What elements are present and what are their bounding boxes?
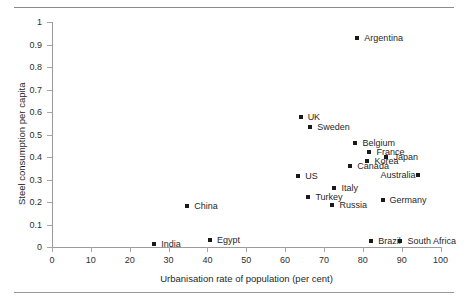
data-point [152,242,156,246]
x-axis-title: Urbanisation rate of population (per cen… [52,273,441,284]
x-tick-label: 40 [192,255,222,265]
data-point-label: India [161,240,181,249]
y-tick-mark [47,225,52,226]
data-point-label: UK [308,112,321,121]
x-tick-label: 0 [37,255,67,265]
scatter-chart: 00.10.20.30.40.50.60.70.80.91 0102030405… [0,0,464,307]
x-tick-label: 60 [270,255,300,265]
data-point [296,174,300,178]
data-point [353,141,357,145]
x-tick-mark [363,247,364,252]
x-tick-mark [52,247,53,252]
data-point-label: Australia [0,171,419,180]
data-point [369,239,373,243]
y-tick-label: 0.8 [2,62,42,72]
data-point [330,203,334,207]
x-tick-mark [324,247,325,252]
y-tick-mark [47,45,52,46]
data-point [332,186,336,190]
data-point-label: Argentina [364,33,403,42]
x-tick-mark [91,247,92,252]
y-tick-label: 1 [2,17,42,27]
data-point [299,115,303,119]
data-point-label: China [194,202,218,211]
y-tick-mark [47,135,52,136]
x-tick-mark [130,247,131,252]
data-point [306,195,310,199]
data-point [348,164,352,168]
data-point [185,204,189,208]
x-tick-mark [441,247,442,252]
x-tick-mark [246,247,247,252]
data-point [308,125,312,129]
data-point [208,238,212,242]
data-point [398,239,402,243]
x-tick-label: 50 [231,255,261,265]
y-tick-label: 0.9 [2,40,42,50]
y-tick-mark [47,157,52,158]
data-point-label: US [305,172,318,181]
y-tick-mark [47,22,52,23]
x-tick-label: 80 [348,255,378,265]
x-tick-label: 20 [115,255,145,265]
y-axis-line [52,22,53,248]
data-point-label: Italy [341,184,358,193]
x-tick-label: 30 [154,255,184,265]
x-tick-mark [207,247,208,252]
y-tick-mark [47,112,52,113]
data-point [381,198,385,202]
data-point-label: Sweden [317,123,350,132]
y-tick-mark [47,67,52,68]
x-tick-label: 100 [426,255,456,265]
x-tick-label: 10 [76,255,106,265]
y-tick-label: 0 [2,242,42,252]
data-point-label: Japan [393,153,418,162]
x-tick-label: 90 [387,255,417,265]
x-tick-mark [285,247,286,252]
y-tick-mark [47,180,52,181]
data-point [367,150,371,154]
y-tick-label: 0.1 [2,220,42,230]
data-point-label: South Africa [407,236,456,245]
data-point [355,36,359,40]
data-point-label: Germany [390,195,427,204]
y-axis-title: Steel consumption per capita [16,82,27,205]
x-tick-mark [402,247,403,252]
data-point-label: Egypt [217,236,240,245]
data-point-label: Brazil [378,236,401,245]
data-point-label: Russia [339,200,367,209]
data-point [384,155,388,159]
x-tick-label: 70 [309,255,339,265]
y-tick-mark [47,90,52,91]
y-tick-mark [47,202,52,203]
